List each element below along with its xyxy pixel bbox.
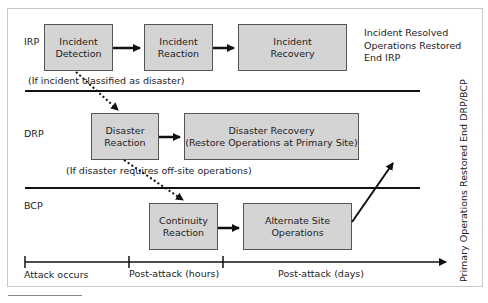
arrow-dotted-to-disaster-reaction (76, 72, 118, 110)
arrow-dotted-to-continuity (124, 160, 183, 200)
arrows-layer (0, 0, 488, 303)
caption-rule (8, 295, 82, 296)
arrow-alternate-to-disaster-recovery (352, 163, 393, 222)
